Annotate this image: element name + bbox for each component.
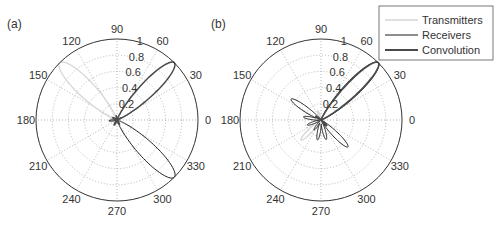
theta-tick-label: 120 — [266, 35, 284, 47]
theta-tick-label: 30 — [394, 69, 406, 81]
grid-spoke — [47, 120, 117, 161]
figure: 03060901201501802102402703003300.20.40.6… — [0, 0, 497, 228]
legend-label: Convolution — [422, 44, 480, 56]
theta-tick-label: 0 — [205, 114, 211, 126]
theta-tick-label: 180 — [17, 114, 35, 126]
theta-tick-label: 90 — [315, 23, 327, 35]
grid-spoke — [321, 120, 362, 190]
theta-tick-label: 150 — [29, 69, 47, 81]
theta-tick-label: 210 — [29, 160, 47, 172]
theta-tick-label: 240 — [266, 193, 284, 205]
theta-tick-label: 330 — [187, 160, 205, 172]
grid-spoke — [251, 120, 321, 161]
theta-tick-label: 270 — [108, 205, 126, 217]
r-tick-label: 0.6 — [329, 66, 344, 78]
theta-tick-label: 240 — [62, 193, 80, 205]
theta-tick-label: 60 — [156, 35, 168, 47]
r-tick-label: 0.4 — [326, 82, 341, 94]
legend: TransmittersReceiversConvolution — [379, 6, 493, 60]
transmitters-pattern — [59, 62, 117, 125]
theta-tick-label: 30 — [190, 69, 202, 81]
r-tick-label: 0.2 — [119, 98, 134, 110]
theta-tick-label: 60 — [360, 35, 372, 47]
polar-plot-a: 03060901201501802102402703003300.20.40.6… — [7, 17, 211, 217]
r-tick-label: 0.2 — [323, 98, 338, 110]
r-tick-label: 1 — [341, 35, 347, 47]
theta-tick-label: 210 — [233, 160, 251, 172]
theta-tick-label: 90 — [111, 23, 123, 35]
r-tick-label: 0.8 — [129, 51, 144, 63]
legend-label: Transmitters — [422, 14, 483, 26]
panel-label: (a) — [7, 17, 22, 31]
theta-tick-label: 180 — [221, 114, 239, 126]
legend-label: Receivers — [422, 29, 471, 41]
grid-spoke — [321, 120, 391, 161]
panel-label: (b) — [211, 17, 226, 31]
theta-tick-label: 120 — [62, 35, 80, 47]
theta-tick-label: 330 — [391, 160, 409, 172]
theta-tick-label: 300 — [357, 193, 375, 205]
grid-spoke — [77, 120, 118, 190]
theta-tick-label: 300 — [153, 193, 171, 205]
grid-spoke — [251, 80, 321, 121]
theta-tick-label: 150 — [233, 69, 251, 81]
grid-spoke — [281, 120, 322, 190]
grid-spoke — [117, 120, 158, 190]
grid-spoke — [117, 120, 187, 161]
theta-tick-label: 0 — [409, 114, 415, 126]
r-tick-label: 1 — [137, 35, 143, 47]
r-tick-label: 0.6 — [125, 66, 140, 78]
theta-tick-label: 270 — [312, 205, 330, 217]
r-tick-label: 0.8 — [333, 51, 348, 63]
r-tick-label: 0.4 — [122, 82, 137, 94]
